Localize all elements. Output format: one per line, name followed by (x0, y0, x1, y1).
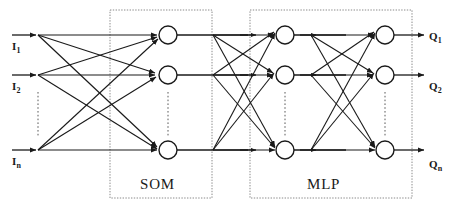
input-label-n: In (12, 155, 21, 170)
node-mlp-output-1 (376, 26, 394, 44)
figure-canvas: I1 I2 In Q1 Q2 Qn SOM MLP (0, 0, 456, 211)
edges-input-to-som (38, 35, 158, 150)
module-label-som: SOM (140, 176, 175, 193)
network-diagram-svg (0, 0, 456, 211)
edges-mlp-hidden-to-output (311, 32, 375, 150)
node-mlp-hidden-1 (276, 26, 294, 44)
output-label-1: Q1 (429, 30, 442, 45)
edges-som-to-mlp-hidden (213, 32, 275, 150)
output-arrows (394, 35, 424, 150)
edges-som-outlines (177, 35, 256, 150)
input-label-1: I1 (12, 40, 21, 55)
node-mlp-hidden-3 (276, 141, 294, 159)
node-mlp-output-2 (376, 66, 394, 84)
module-label-mlp: MLP (307, 176, 340, 193)
node-som-3 (159, 141, 177, 159)
node-mlp-hidden-2 (276, 66, 294, 84)
output-label-n: Qn (429, 158, 442, 173)
node-som-1 (159, 26, 177, 44)
output-label-2: Q2 (429, 80, 442, 95)
input-label-2: I2 (12, 80, 21, 95)
node-mlp-output-3 (376, 141, 394, 159)
node-som-2 (159, 66, 177, 84)
